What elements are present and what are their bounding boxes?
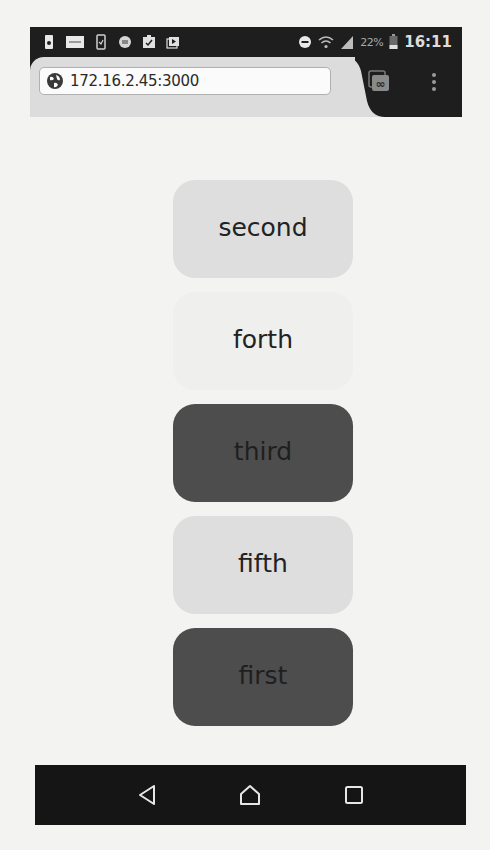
clock: 16:11 — [404, 33, 452, 51]
system-indicators: 22% 16:11 — [298, 33, 452, 51]
menu-dot — [432, 87, 436, 91]
card-label: fifth — [238, 549, 288, 578]
home-icon — [238, 783, 262, 807]
card-fifth[interactable]: fifth — [173, 516, 353, 614]
url-text[interactable]: 172.16.2.45:3000 — [70, 72, 199, 90]
battery-saver-icon — [42, 34, 56, 50]
android-nav-bar — [35, 765, 466, 825]
battery-icon — [389, 34, 398, 50]
tab-switcher-icon: ∞ — [367, 69, 391, 93]
url-bar[interactable]: 172.16.2.45:3000 — [39, 67, 331, 95]
media-player-icon — [166, 34, 180, 50]
card-label: first — [239, 661, 288, 690]
back-button[interactable] — [134, 782, 160, 808]
do-not-disturb-icon — [298, 34, 312, 50]
menu-dot — [432, 73, 436, 77]
battery-percent: 22% — [360, 36, 383, 49]
globe-icon — [46, 72, 64, 90]
status-bar: 22% 16:11 — [30, 27, 462, 57]
recents-icon — [344, 785, 364, 805]
svg-text:∞: ∞ — [376, 77, 386, 91]
recents-button[interactable] — [341, 782, 367, 808]
card-second[interactable]: second — [173, 180, 353, 278]
back-icon — [137, 784, 157, 806]
menu-dot — [432, 80, 436, 84]
tab-switcher-button[interactable]: ∞ — [367, 69, 391, 93]
card-third[interactable]: third — [173, 404, 353, 502]
card-label: third — [234, 437, 292, 466]
phone-check-icon — [94, 34, 108, 50]
shield-app-icon — [118, 34, 132, 50]
overflow-menu-button[interactable] — [426, 69, 442, 95]
browser-toolbar: 172.16.2.45:3000 ∞ — [30, 57, 462, 117]
card-label: second — [218, 213, 307, 242]
notification-app-icon — [66, 34, 84, 50]
card-first[interactable]: first — [173, 628, 353, 726]
cell-signal-icon — [340, 34, 354, 50]
card-forth[interactable]: forth — [173, 292, 353, 390]
card-label: forth — [233, 325, 293, 354]
wifi-icon — [318, 34, 334, 50]
notification-icons — [42, 34, 180, 50]
home-button[interactable] — [237, 782, 263, 808]
card-list: second forth third fifth first — [173, 180, 353, 740]
clipboard-check-icon — [142, 34, 156, 50]
